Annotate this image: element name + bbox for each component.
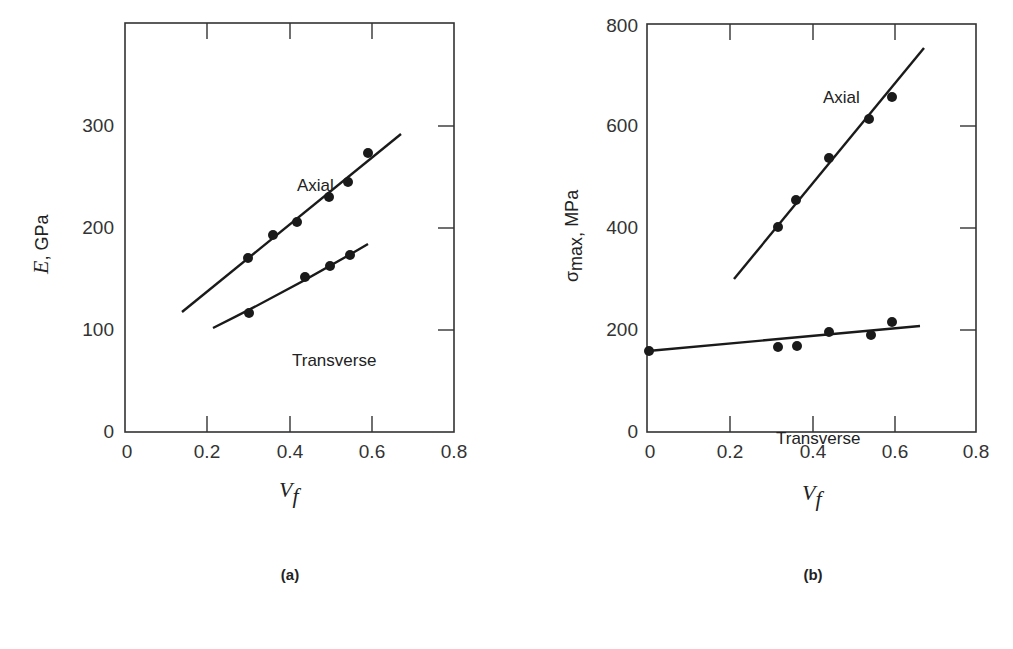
chart-b-ticks [730, 24, 976, 432]
chart-b: 0 200 400 600 800 0 0.2 0.4 0.6 0.8 [562, 15, 989, 583]
panel-label-b: (b) [803, 566, 822, 583]
x-tick-0.6: 0.6 [359, 441, 385, 462]
x-tick-0.6: 0.6 [882, 441, 908, 462]
x-tick-0.8: 0.8 [441, 441, 467, 462]
y-tick-400: 400 [606, 217, 638, 238]
x-axis-title: Vf [279, 477, 301, 508]
transverse-points [644, 317, 897, 356]
axial-label: Axial [823, 88, 860, 107]
x-tick-0: 0 [645, 441, 656, 462]
x-tick-0.4: 0.4 [277, 441, 304, 462]
panel-label-a: (a) [281, 566, 299, 583]
y-tick-0: 0 [103, 421, 114, 442]
figure: 0 100 200 300 0 0.2 0.4 0.6 0.8 [0, 0, 1013, 649]
y-tick-200: 200 [82, 217, 114, 238]
x-tick-0.2: 0.2 [717, 441, 743, 462]
y-tick-600: 600 [606, 115, 638, 136]
x-tick-0.8: 0.8 [963, 441, 989, 462]
y-axis-title: E, GPa [28, 214, 53, 275]
chart-a: 0 100 200 300 0 0.2 0.4 0.6 0.8 [28, 23, 467, 583]
chart-a-y-tick-labels: 0 100 200 300 [82, 115, 114, 442]
transverse-fit-line [648, 326, 920, 351]
y-tick-200: 200 [606, 319, 638, 340]
chart-a-ticks [207, 23, 454, 432]
x-tick-0: 0 [122, 441, 133, 462]
x-axis-title: Vf [802, 480, 824, 511]
x-tick-0.2: 0.2 [194, 441, 220, 462]
chart-a-frame [125, 23, 454, 432]
chart-a-x-tick-labels: 0 0.2 0.4 0.6 0.8 [122, 441, 468, 462]
y-tick-800: 800 [606, 15, 638, 36]
axial-fit-line [182, 134, 401, 312]
y-axis-title: σmax, MPa [562, 189, 586, 282]
axial-label: Axial [297, 176, 334, 195]
y-tick-100: 100 [82, 319, 114, 340]
transverse-label: Transverse [292, 351, 376, 370]
chart-b-frame [647, 24, 976, 432]
transverse-fit-curve [213, 244, 368, 328]
transverse-label: Transverse [776, 429, 860, 448]
y-tick-0: 0 [627, 421, 638, 442]
axial-points [773, 92, 897, 232]
y-tick-300: 300 [82, 115, 114, 136]
chart-b-y-tick-labels: 0 200 400 600 800 [606, 15, 638, 442]
axial-fit-line [734, 48, 924, 279]
